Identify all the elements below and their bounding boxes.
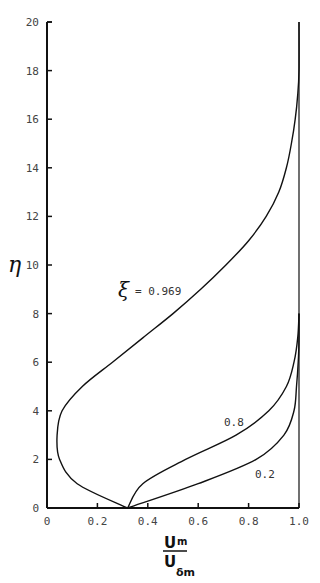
y-tick-label: 12: [26, 210, 39, 223]
axis-ticks: 0246810121416182000.20.40.60.81.0: [26, 16, 309, 528]
curve-0.969: [57, 22, 299, 508]
axes: [47, 22, 299, 508]
svg-text:U: U: [164, 553, 176, 571]
velocity-profile-chart: 0246810121416182000.20.40.60.81.0 η ξ = …: [0, 0, 320, 583]
x-tick-label: 0.2: [87, 515, 107, 528]
y-axis-label: η: [8, 252, 21, 277]
curve-label-0.8: 0.8: [224, 416, 244, 429]
x-tick-label: 0: [44, 515, 51, 528]
svg-text:δm: δm: [176, 566, 195, 579]
y-tick-label: 6: [32, 356, 39, 369]
xi-annotation-value: = 0.969: [135, 285, 181, 298]
y-tick-label: 18: [26, 65, 39, 78]
x-tick-label: 0.8: [239, 515, 259, 528]
x-axis-label: U m U δm: [163, 534, 195, 579]
x-tick-label: 0.4: [138, 515, 158, 528]
y-tick-label: 4: [32, 405, 39, 418]
curves: [57, 22, 299, 508]
curve-label-0.2: 0.2: [255, 468, 275, 481]
y-tick-label: 16: [26, 113, 39, 126]
x-tick-label: 1.0: [289, 515, 309, 528]
y-tick-label: 2: [32, 453, 39, 466]
x-tick-label: 0.6: [188, 515, 208, 528]
y-tick-label: 20: [26, 16, 39, 29]
y-tick-label: 0: [32, 502, 39, 515]
xi-annotation-symbol: ξ: [118, 278, 130, 302]
svg-text:U: U: [164, 534, 176, 552]
svg-text:m: m: [177, 536, 187, 547]
y-tick-label: 8: [32, 308, 39, 321]
y-tick-label: 10: [26, 259, 39, 272]
y-tick-label: 14: [26, 162, 40, 175]
